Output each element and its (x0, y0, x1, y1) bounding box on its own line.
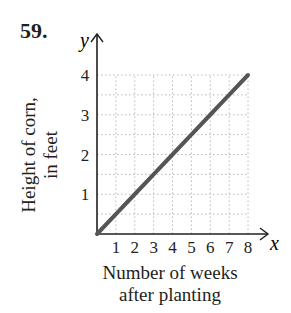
x-tick-label: 1 (112, 238, 121, 257)
y-axis-label-line2: in feet (40, 80, 62, 230)
x-axis-variable: x (269, 232, 279, 254)
y-tick-label: 2 (81, 146, 90, 165)
x-tick-label: 8 (244, 238, 253, 257)
y-axis-variable: y (78, 29, 89, 52)
x-axis-label-line2: after planting (90, 284, 250, 306)
axes (91, 34, 268, 240)
x-tick-label: 6 (206, 238, 215, 257)
y-tick-label: 4 (81, 66, 90, 85)
x-axis-label: Number of weeks after planting (90, 262, 250, 306)
y-tick-label: 1 (81, 185, 90, 204)
x-tick-label: 5 (187, 238, 196, 257)
x-tick-label: 4 (168, 238, 177, 257)
x-axis-label-line1: Number of weeks (90, 262, 250, 284)
y-tick-label: 3 (81, 106, 90, 125)
y-axis-label-line1: Height of corn, (18, 80, 40, 230)
x-tick-label: 3 (149, 238, 158, 257)
y-axis-label: Height of corn, in feet (10, 80, 70, 230)
x-tick-label: 7 (225, 238, 234, 257)
x-tick-label: 2 (131, 238, 140, 257)
